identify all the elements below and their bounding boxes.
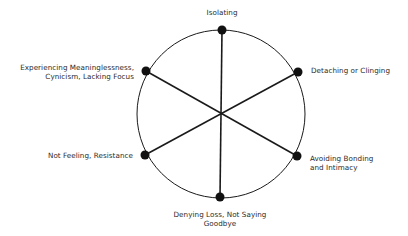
node-denying	[216, 193, 225, 202]
label-isolating: Isolating	[206, 8, 237, 17]
node-avoiding	[293, 152, 302, 161]
node-not-feeling	[141, 151, 150, 160]
label-line: Goodbye	[174, 219, 267, 228]
label-line: Cynicism, Lacking Focus	[20, 72, 134, 81]
label-detaching: Detaching or Clinging	[311, 66, 390, 75]
label-meaninglessness: Experiencing Meaninglessness, Cynicism, …	[20, 63, 134, 81]
label-avoiding: Avoiding Bonding and Intimacy	[310, 154, 373, 172]
label-line: Experiencing Meaninglessness,	[20, 63, 134, 72]
label-line: Isolating	[206, 8, 237, 17]
hexagonal-wheel-diagram	[0, 0, 408, 236]
label-not-feeling: Not Feeling, Resistance	[48, 151, 133, 160]
label-line: Detaching or Clinging	[311, 66, 390, 75]
label-line: and Intimacy	[310, 163, 373, 172]
node-isolating	[218, 26, 227, 35]
node-detaching	[294, 68, 303, 77]
label-line: Avoiding Bonding	[310, 154, 373, 163]
node-meaninglessness	[142, 67, 151, 76]
label-denying: Denying Loss, Not Saying Goodbye	[174, 210, 267, 228]
label-line: Denying Loss, Not Saying	[174, 210, 267, 219]
label-line: Not Feeling, Resistance	[48, 151, 133, 160]
